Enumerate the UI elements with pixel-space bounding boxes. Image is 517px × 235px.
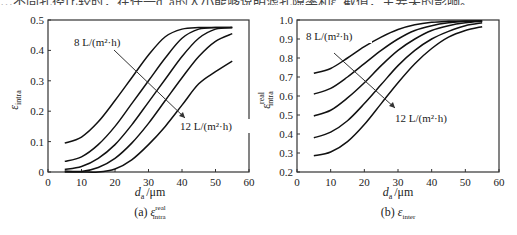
- panel-caption: (a) εrealintra: [134, 204, 166, 221]
- x-tick-label: 0: [294, 176, 300, 188]
- y-tick-label: 0.2: [30, 105, 44, 117]
- y-tick-label: 0.3: [279, 147, 293, 159]
- y-tick-label: 0: [39, 166, 45, 178]
- y-tick-label: 0.5: [279, 109, 293, 121]
- data-series-line: [314, 27, 482, 156]
- x-tick-label: 40: [426, 176, 438, 188]
- y-tick-label: 0.4: [279, 128, 293, 140]
- annotation-end-label: 12 L/(m²·h): [395, 112, 447, 125]
- y-tick-label: 0.8: [279, 52, 293, 64]
- y-tick-label: 0.3: [30, 75, 44, 87]
- y-tick-label: 0.9: [279, 33, 293, 45]
- annotation-start-label: 8 L/(m²·h): [74, 36, 121, 49]
- x-axis-label: da/μm: [135, 185, 166, 201]
- x-tick-label: 20: [359, 176, 371, 188]
- data-series-line: [65, 61, 233, 172]
- x-tick-label: 60: [244, 176, 256, 188]
- annotation-end-label: 12 L/(m²·h): [180, 120, 232, 133]
- annotation-start-label: 8 L/(m²·h): [306, 30, 353, 43]
- x-tick-label: 20: [110, 176, 122, 188]
- x-tick-label: 10: [76, 176, 88, 188]
- y-tick-label: 0.7: [279, 71, 293, 83]
- chart-panel-b: 01020304050600.20.30.40.50.60.70.80.91.0…: [257, 14, 505, 221]
- y-tick-label: 0.2: [279, 166, 293, 178]
- y-tick-label: 0.5: [30, 14, 44, 26]
- x-tick-label: 50: [210, 176, 222, 188]
- x-tick-label: 60: [494, 176, 506, 188]
- panel-caption: (b) εinter: [381, 205, 416, 221]
- x-tick-label: 0: [45, 176, 51, 188]
- figure-canvas: 010203040506000.10.20.30.40.58 L/(m²·h)1…: [0, 0, 517, 235]
- y-tick-label: 0.4: [30, 44, 44, 56]
- x-tick-label: 40: [177, 176, 189, 188]
- trend-arrow: [114, 50, 185, 118]
- y-tick-label: 0.1: [30, 136, 44, 148]
- x-tick-label: 50: [460, 176, 472, 188]
- chart-panel-a: 010203040506000.10.20.30.40.58 L/(m²·h)1…: [7, 14, 255, 221]
- y-tick-label: 0.6: [279, 90, 293, 102]
- y-axis-label: εintra: [7, 90, 23, 110]
- y-tick-label: 1.0: [279, 14, 293, 26]
- y-axis-label: εrealintra: [257, 91, 275, 109]
- x-axis-label: da/μm: [383, 185, 414, 201]
- x-tick-label: 10: [325, 176, 337, 188]
